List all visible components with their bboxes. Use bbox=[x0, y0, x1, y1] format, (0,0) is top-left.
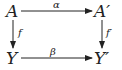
node-A: A bbox=[6, 3, 18, 20]
label-f-prime: f′ bbox=[106, 28, 112, 38]
node-Y-prime: Y′ bbox=[94, 50, 109, 67]
label-alpha: α bbox=[53, 0, 60, 10]
node-A-prime: A′ bbox=[94, 3, 110, 20]
node-Y: Y bbox=[6, 50, 17, 67]
label-f: f bbox=[18, 28, 22, 38]
label-beta: β bbox=[50, 47, 56, 57]
